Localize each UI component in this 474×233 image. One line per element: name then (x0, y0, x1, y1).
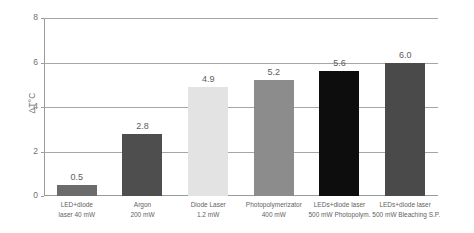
x-category-line: 200 mW (110, 210, 176, 220)
x-category-line: 500 mW Bleaching S.P. (372, 210, 438, 220)
bar-chart-figure: ΔT°C 86420 0.52.84.95.25.66.0 LED+diodel… (0, 0, 474, 233)
margin-caption-fragment (456, 160, 472, 188)
margin-caption-line (456, 174, 472, 181)
y-tick-label: 0 (22, 191, 38, 200)
bars-group: 0.52.84.95.25.66.0 (44, 18, 438, 196)
bar-slot: 6.0 (372, 18, 438, 196)
x-category-line: Photopolymerizator (241, 200, 307, 210)
x-category-line: 500 mW Photopolym. (307, 210, 373, 220)
bar-value-label: 2.8 (136, 122, 149, 131)
bar[interactable] (319, 71, 359, 196)
y-tick-label: 8 (22, 13, 38, 22)
x-category-line: Diode Laser (175, 200, 241, 210)
y-tick-mark (41, 196, 44, 197)
y-tick-label: 2 (22, 147, 38, 156)
x-axis-category-labels: LED+diodelaser 40 mWArgon200 mWDiode Las… (44, 200, 438, 226)
margin-caption-line (456, 167, 472, 174)
x-category-line: 400 mW (241, 210, 307, 220)
x-category-label: LED+diodelaser 40 mW (44, 200, 110, 219)
x-category-line: laser 40 mW (44, 210, 110, 220)
x-category-line: LEDs+diode laser (307, 200, 373, 210)
bar-slot: 4.9 (175, 18, 241, 196)
bar-value-label: 5.6 (333, 59, 346, 68)
margin-caption-line (456, 181, 472, 188)
x-category-label: Photopolymerizator400 mW (241, 200, 307, 219)
x-category-line: LEDs+diode laser (372, 200, 438, 210)
x-category-label: Diode Laser1.2 mW (175, 200, 241, 219)
bar-slot: 5.2 (241, 18, 307, 196)
x-category-line: LED+diode (44, 200, 110, 210)
bar[interactable] (57, 185, 97, 196)
bar-slot: 0.5 (44, 18, 110, 196)
y-tick-label: 6 (22, 58, 38, 67)
x-category-line: 1.2 mW (175, 210, 241, 220)
x-category-label: LEDs+diode laser500 mW Photopolym. (307, 200, 373, 219)
bar-value-label: 5.2 (268, 68, 281, 77)
bar-value-label: 0.5 (71, 173, 84, 182)
x-category-label: Argon200 mW (110, 200, 176, 219)
bar[interactable] (385, 63, 425, 197)
x-category-line: Argon (110, 200, 176, 210)
margin-caption-line (456, 160, 472, 167)
bar[interactable] (122, 134, 162, 196)
bar[interactable] (188, 87, 228, 196)
x-category-label: LEDs+diode laser500 mW Bleaching S.P. (372, 200, 438, 219)
bar-slot: 2.8 (110, 18, 176, 196)
plot-area: 86420 0.52.84.95.25.66.0 (44, 18, 438, 196)
bar-value-label: 4.9 (202, 75, 215, 84)
y-tick-label: 4 (22, 102, 38, 111)
bar[interactable] (254, 80, 294, 196)
bar-value-label: 6.0 (399, 51, 412, 60)
bar-slot: 5.6 (307, 18, 373, 196)
